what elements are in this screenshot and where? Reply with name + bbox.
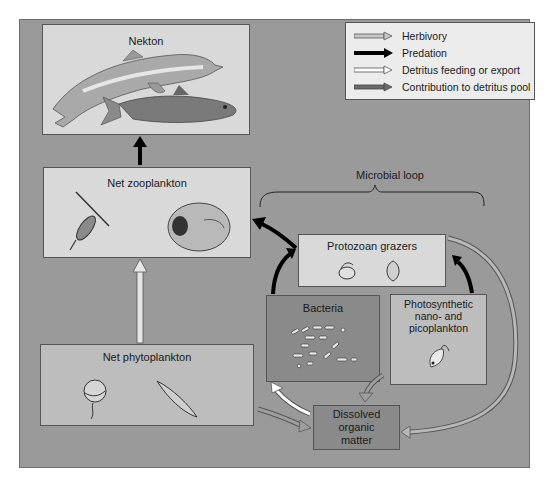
- dinoflagellate-icon: [79, 375, 119, 425]
- ciliate-icon: [335, 259, 359, 283]
- legend-label: Herbivory: [402, 30, 447, 42]
- dom-line2: organic: [314, 421, 399, 433]
- legend-label: Contribution to detritus pool: [402, 81, 530, 93]
- bacteria-label: Bacteria: [267, 302, 379, 314]
- herring-fish-icon: [43, 25, 251, 136]
- bacteria-box: Bacteria: [266, 295, 380, 382]
- legend-item-predation: Predation: [354, 44, 534, 61]
- nekton-box: Nekton: [42, 24, 250, 135]
- legend: Herbivory Predation Detritus feeding or …: [345, 22, 535, 100]
- flagellate-icon: [383, 259, 403, 283]
- legend-item-detritus-pool: Contribution to detritus pool: [354, 78, 534, 95]
- dom-box: Dissolved organic matter: [313, 405, 400, 450]
- zooplankton-box: Net zooplankton: [43, 167, 251, 258]
- diatom-icon: [153, 377, 203, 427]
- legend-item-detritus-feeding: Detritus feeding or export: [354, 61, 534, 78]
- legend-item-herbivory: Herbivory: [354, 27, 534, 44]
- bacteria-cells-icon: [287, 324, 367, 374]
- copepod-icon: [64, 188, 124, 258]
- phytoplankton-label: Net phytoplankton: [41, 351, 253, 363]
- protozoan-label: Protozoan grazers: [299, 240, 445, 252]
- phytoplankton-box: Net phytoplankton: [40, 344, 254, 426]
- microbial-loop-label: Microbial loop: [330, 169, 450, 181]
- legend-label: Predation: [402, 47, 447, 59]
- detritus-feeding-arrow-icon: [354, 65, 394, 75]
- detritus-pool-arrow-icon: [354, 82, 394, 92]
- protozoan-box: Protozoan grazers: [298, 234, 446, 287]
- larval-organism-icon: [164, 200, 234, 255]
- photosynthetic-line3: picoplankton: [391, 322, 486, 334]
- dom-line1: Dissolved: [314, 408, 399, 420]
- photosynthetic-line1: Photosynthetic: [391, 298, 486, 310]
- flagellate-cell-icon: [423, 341, 453, 375]
- predation-arrow-icon: [354, 48, 394, 58]
- photosynthetic-line2: nano- and: [391, 310, 486, 322]
- photosynthetic-box: Photosynthetic nano- and picoplankton: [390, 294, 487, 385]
- legend-label: Detritus feeding or export: [402, 64, 520, 76]
- herbivory-arrow-icon: [354, 31, 394, 41]
- dom-line3: matter: [314, 434, 399, 446]
